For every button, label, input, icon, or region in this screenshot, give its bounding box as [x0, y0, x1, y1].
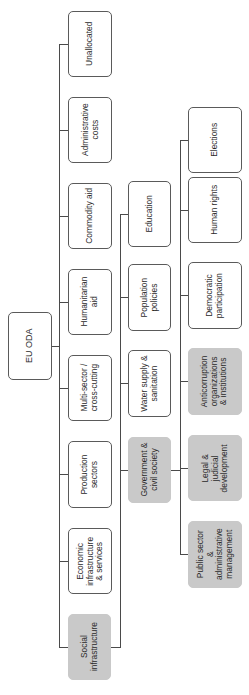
node-label: Commodity aid: [85, 188, 95, 244]
node-water-supply: Water supply & sanitation: [128, 350, 171, 417]
connector-social-out: [111, 647, 120, 648]
node-social-infrastructure: Social infrastructure: [68, 614, 111, 680]
trunk-level2: [120, 214, 121, 648]
node-commodity-aid: Commodity aid: [68, 183, 112, 249]
trunk-level3: [180, 140, 181, 555]
node-label: Multi-sector / cross-cutting: [80, 364, 99, 412]
node-label: Humanitarian aid: [80, 277, 99, 327]
node-anticorruption: Anticorruption organizations & instituti…: [188, 348, 242, 415]
node-multi-sector: Multi-sector / cross-cutting: [68, 355, 112, 421]
node-label: Unallocated: [85, 22, 95, 66]
node-label: Education: [145, 195, 155, 232]
connector-production: [59, 474, 68, 475]
node-democratic-participation: Democratic participation: [188, 262, 242, 329]
node-administrative-costs: Administrative costs: [68, 97, 112, 163]
node-population-policies: Population policies: [128, 264, 171, 331]
node-education: Education: [128, 181, 171, 247]
node-eu-oda: EU ODA: [8, 312, 52, 380]
connector-elections: [180, 140, 188, 141]
node-label: EU ODA: [25, 329, 35, 364]
node-label: Legal & judicial development: [201, 444, 230, 492]
connector-democratic: [180, 295, 188, 296]
connector-humanitarian: [59, 302, 68, 303]
connector-multisector: [59, 388, 68, 389]
node-label: Water supply & sanitation: [140, 355, 159, 411]
connector-human-rights: [180, 210, 188, 211]
node-human-rights: Human rights: [188, 177, 242, 243]
connector-government-out: [171, 470, 180, 471]
node-label: Economic infrastructure & services: [76, 537, 105, 586]
connector-government: [120, 470, 128, 471]
node-label: Elections: [210, 123, 220, 157]
connector-economic: [59, 561, 68, 562]
eu-oda-tree-diagram: EU ODA Unallocated Administrative costs …: [0, 0, 249, 695]
node-label: Social infrastructure: [80, 623, 99, 672]
connector-water: [120, 383, 128, 384]
node-economic-infrastructure: Economic infrastructure & services: [68, 528, 112, 594]
connector-unallocated: [59, 44, 68, 45]
trunk-level1: [59, 44, 60, 648]
node-label: Public sector & administrative managemen…: [196, 529, 234, 581]
connector-education: [120, 214, 128, 215]
node-production-sectors: Production sectors: [68, 441, 112, 508]
node-government-civil-society: Government & civil society: [128, 437, 171, 503]
node-label: Anticorruption organizations & instituti…: [201, 356, 230, 408]
connector-public-sector: [180, 554, 188, 555]
node-label: Government & civil society: [140, 443, 159, 497]
node-humanitarian-aid: Humanitarian aid: [68, 269, 112, 335]
connector-population: [120, 297, 128, 298]
node-label: Administrative costs: [80, 104, 99, 157]
node-label: Production sectors: [80, 454, 99, 494]
node-unallocated: Unallocated: [68, 11, 112, 77]
node-label: Human rights: [210, 185, 220, 235]
connector-anticorruption: [180, 381, 188, 382]
connector-root: [52, 346, 59, 347]
connector-administrative: [59, 130, 68, 131]
connector-legal: [180, 468, 188, 469]
node-legal-judicial: Legal & judicial development: [188, 435, 242, 501]
node-label: Democratic participation: [205, 273, 224, 318]
connector-commodity: [59, 216, 68, 217]
connector-social: [59, 647, 68, 648]
node-public-sector: Public sector & administrative managemen…: [188, 521, 242, 588]
node-elections: Elections: [188, 107, 242, 173]
node-label: Population policies: [140, 278, 159, 318]
